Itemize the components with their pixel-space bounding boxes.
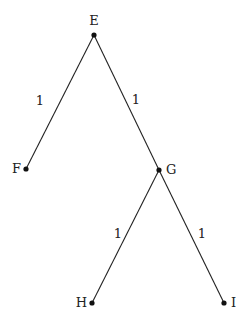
node-g-label: G bbox=[166, 162, 176, 177]
edge-weight-e-f: 1 bbox=[36, 93, 44, 108]
edge-g-i bbox=[159, 170, 224, 303]
node-e-label: E bbox=[89, 13, 99, 28]
edge-e-g bbox=[94, 35, 159, 170]
edge-g-h bbox=[92, 170, 159, 303]
edge-weight-g-i: 1 bbox=[198, 226, 206, 241]
edges bbox=[26, 35, 224, 303]
node-f-dot bbox=[23, 166, 28, 171]
edge-weight-e-g: 1 bbox=[132, 92, 140, 107]
node-h-dot bbox=[89, 300, 94, 305]
node-h-label: H bbox=[76, 295, 87, 310]
node-e-dot bbox=[91, 32, 96, 37]
node-i-label: I bbox=[231, 295, 236, 310]
edge-weight-g-h: 1 bbox=[114, 226, 122, 241]
tree-diagram: 1 1 1 1 E F G H I bbox=[0, 0, 251, 321]
edge-labels: 1 1 1 1 bbox=[36, 92, 206, 241]
node-g-dot bbox=[156, 167, 161, 172]
node-i-dot bbox=[221, 300, 226, 305]
nodes bbox=[23, 32, 226, 305]
node-f-label: F bbox=[12, 161, 21, 176]
node-labels: E F G H I bbox=[12, 13, 236, 310]
